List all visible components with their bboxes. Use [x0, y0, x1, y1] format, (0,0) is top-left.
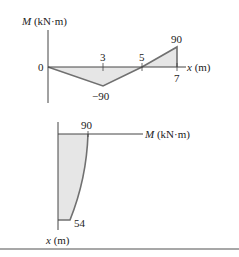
tick-label-3: 3 — [100, 51, 106, 63]
min-value-label: −90 — [92, 90, 110, 102]
bottom-value-label: 54 — [74, 217, 86, 229]
max-value-label: 90 — [171, 33, 183, 45]
x-axis-label: x (m) — [186, 61, 211, 74]
tick-label-7: 7 — [174, 72, 180, 84]
origin-label: 0 — [38, 61, 44, 73]
tick-label-5: 5 — [139, 51, 145, 63]
top-moment-diagram: M (kN·m) 0 3 5 7 −90 90 x (m) — [21, 15, 211, 103]
top-value-label: 90 — [81, 119, 93, 131]
bottom-moment-diagram: 90 M (kN·m) 54 x (m) — [45, 119, 190, 247]
moment-diagrams: M (kN·m) 0 3 5 7 −90 90 x (m) 90 M (kN·m… — [0, 0, 239, 257]
m-axis-label-bottom: M (kN·m) — [144, 128, 190, 141]
m-axis-label: M (kN·m) — [21, 15, 67, 28]
x-axis-label-bottom: x (m) — [45, 234, 70, 247]
